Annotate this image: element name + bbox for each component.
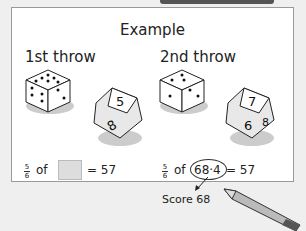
second-throw-heading: 2nd throw bbox=[160, 48, 236, 66]
top-bar bbox=[160, 0, 274, 4]
answer-box[interactable] bbox=[58, 160, 82, 180]
svg-text:7: 7 bbox=[248, 94, 256, 109]
fraction-1: 56 bbox=[24, 163, 30, 180]
arrow-icon bbox=[192, 176, 212, 192]
fraction-2: 56 bbox=[162, 163, 168, 180]
first-throw-heading: 1st throw bbox=[25, 48, 96, 66]
equals-1: = 57 bbox=[87, 163, 116, 177]
d10-die-2: 7 6 8 bbox=[226, 88, 274, 146]
svg-text:6: 6 bbox=[244, 118, 252, 133]
example-card: Example 1st throw 2nd throw 5 8 bbox=[11, 7, 294, 182]
dice-illustration: 5 8 7 6 8 bbox=[12, 68, 295, 158]
svg-text:8: 8 bbox=[262, 116, 269, 129]
score-label: Score 68 bbox=[162, 193, 210, 206]
of-label-2: of bbox=[174, 163, 186, 177]
of-label-1: of bbox=[36, 163, 48, 177]
pencil-icon bbox=[220, 185, 306, 231]
answer-value: 68·4 bbox=[194, 163, 221, 177]
d10-die-1: 5 8 bbox=[94, 88, 142, 146]
d6-die-2 bbox=[160, 70, 208, 114]
d6-die-1 bbox=[26, 70, 74, 114]
equals-2: = 57 bbox=[226, 163, 255, 177]
svg-text:5: 5 bbox=[116, 94, 124, 109]
title: Example bbox=[12, 21, 293, 39]
